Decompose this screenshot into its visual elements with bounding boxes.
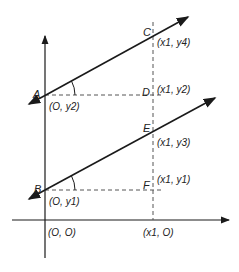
- label-d: D: [142, 86, 150, 98]
- angle-arc-b: [72, 176, 76, 190]
- coord-a: (O, y2): [49, 101, 80, 112]
- coord-f: (x1, y1): [157, 174, 190, 185]
- label-c: C: [143, 26, 151, 38]
- label-a: A: [32, 88, 40, 100]
- coord-b: (O, y1): [49, 196, 80, 207]
- angle-arc-a: [72, 81, 76, 95]
- diagram: A B C D E F (O, y2) (O, y1) (x1, y4) (x1…: [0, 0, 239, 272]
- coord-c: (x1, y4): [157, 37, 190, 48]
- origin-label: (O, O): [48, 227, 76, 238]
- label-b: B: [34, 183, 41, 195]
- coord-e: (x1, y3): [157, 137, 190, 148]
- x1-axis-label: (x1, O): [143, 227, 174, 238]
- coord-d: (x1, y2): [157, 84, 190, 95]
- label-e: E: [143, 122, 151, 134]
- label-f: F: [143, 179, 151, 191]
